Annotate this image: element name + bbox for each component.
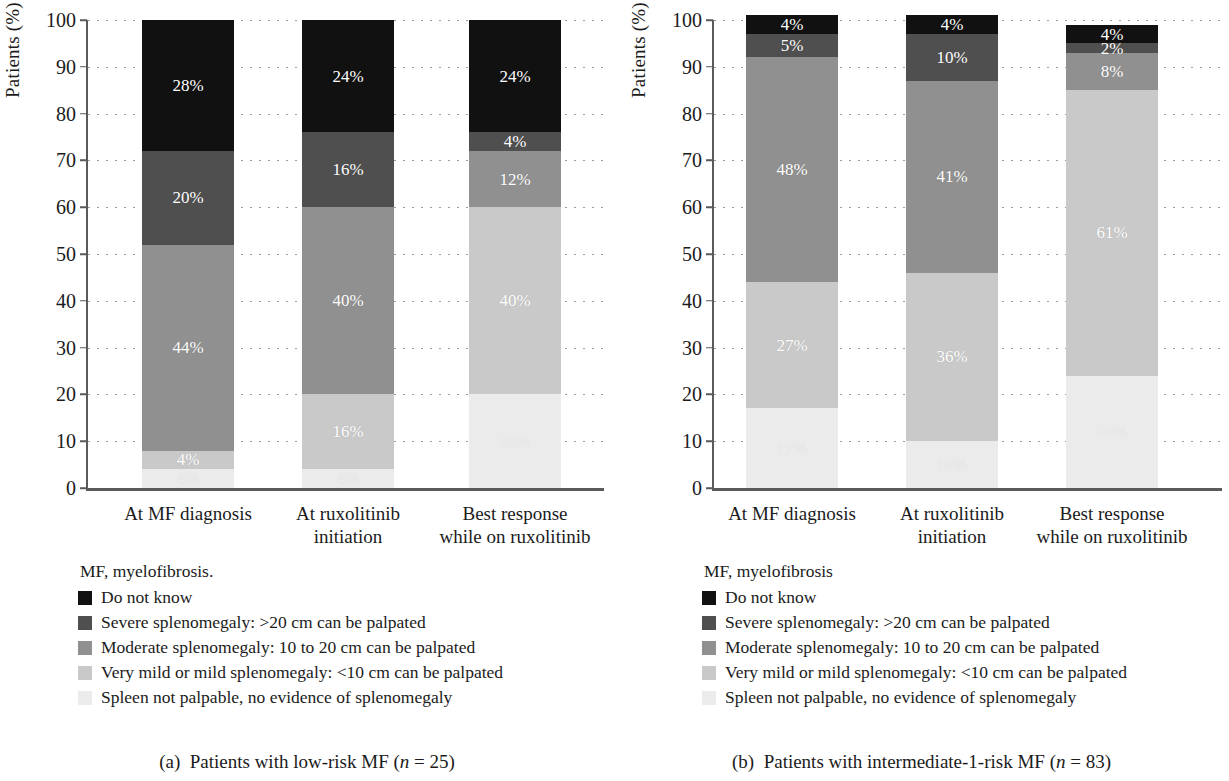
bar-segment: 4% (302, 469, 394, 488)
bar-segment: 10% (906, 441, 998, 488)
bar-segment-label: 20% (172, 189, 203, 206)
legend-b: MF, myelofibrosis Do not knowSevere sple… (702, 560, 1127, 712)
bar-segment: 24% (469, 20, 561, 132)
legend-item-label: Spleen not palpable, no evidence of sple… (101, 686, 452, 709)
bar-segment-label: 4% (941, 16, 964, 33)
panel-b: Patients (%) 0102030405060708090100 17%2… (614, 0, 1229, 781)
bar-segment: 4% (906, 15, 998, 34)
legend-item-label: Very mild or mild splenomegaly: <10 cm c… (725, 661, 1127, 684)
bar-segment-label: 28% (172, 77, 203, 94)
bar-segment: 4% (469, 132, 561, 151)
legend-item[interactable]: Very mild or mild splenomegaly: <10 cm c… (702, 661, 1127, 684)
bar-segment-label: 4% (504, 133, 527, 150)
caption-a-suffix: = 25) (409, 751, 455, 772)
legend-a: MF, myelofibrosis. Do not knowSevere spl… (78, 560, 503, 712)
caption-a-text: Patients with low-risk MF ( (190, 751, 400, 772)
bar-segment-label: 24% (1096, 423, 1127, 440)
legend-swatch-icon (78, 616, 92, 630)
legend-swatch-icon (702, 666, 716, 680)
legend-item[interactable]: Severe splenomegaly: >20 cm can be palpa… (702, 611, 1127, 634)
panel-a: Patients (%) 0102030405060708090100 4%4%… (0, 0, 614, 781)
caption-a-n: n (400, 751, 410, 772)
x-axis-line-a (86, 488, 604, 491)
category-label: Best response while on ruxolitinib (1002, 502, 1222, 548)
stacked-bar[interactable]: 24%61%8%2%4% (1066, 25, 1158, 488)
legend-item[interactable]: Moderate splenomegaly: 10 to 20 cm can b… (702, 636, 1127, 659)
bar-segment-label: 44% (172, 339, 203, 356)
bar-segment: 5% (746, 34, 838, 57)
legend-swatch-icon (702, 641, 716, 655)
bar-segment-label: 16% (332, 423, 363, 440)
bar-segment-label: 48% (776, 161, 807, 178)
bar-segment-label: 27% (776, 337, 807, 354)
bar-segment-label: 5% (781, 37, 804, 54)
bar-segment: 20% (469, 394, 561, 488)
legend-note-b: MF, myelofibrosis (704, 560, 1127, 583)
bar-segment-label: 16% (332, 161, 363, 178)
bar-segment: 4% (746, 15, 838, 34)
legend-swatch-icon (702, 616, 716, 630)
bar-segment-label: 20% (499, 433, 530, 450)
stacked-bar[interactable]: 20%40%12%4%24% (469, 20, 561, 488)
stacked-bar[interactable]: 4%4%44%20%28% (142, 20, 234, 488)
legend-swatch-icon (702, 591, 716, 605)
bar-segment: 4% (142, 469, 234, 488)
caption-a: (a) Patients with low-risk MF (n = 25) (0, 751, 614, 773)
bar-segment-label: 40% (332, 292, 363, 309)
legend-item[interactable]: Spleen not palpable, no evidence of sple… (702, 686, 1127, 709)
bar-segment: 16% (302, 132, 394, 207)
bar-segment: 8% (1066, 53, 1158, 90)
bar-segment: 4% (142, 451, 234, 470)
bar-segment-label: 24% (332, 68, 363, 85)
stacked-bar-figure: Patients (%) 0102030405060708090100 4%4%… (0, 0, 1229, 781)
legend-item[interactable]: Very mild or mild splenomegaly: <10 cm c… (78, 661, 503, 684)
bar-segment-label: 4% (177, 451, 200, 468)
bar-segment-label: 8% (1101, 63, 1124, 80)
category-label: Best response while on ruxolitinib (405, 502, 625, 548)
legend-item[interactable]: Moderate splenomegaly: 10 to 20 cm can b… (78, 636, 503, 659)
bar-segment: 16% (302, 394, 394, 469)
bar-segment: 40% (302, 207, 394, 394)
bar-segment: 4% (1066, 25, 1158, 44)
stacked-bar[interactable]: 4%16%40%16%24% (302, 20, 394, 488)
x-axis-line-b (712, 488, 1222, 491)
bar-segment: 48% (746, 57, 838, 282)
bar-segment-label: 10% (936, 456, 967, 473)
stacked-bar[interactable]: 10%36%41%10%4% (906, 15, 998, 488)
legend-item[interactable]: Severe splenomegaly: >20 cm can be palpa… (78, 611, 503, 634)
legend-swatch-icon (78, 641, 92, 655)
bar-segment: 24% (1066, 376, 1158, 488)
bar-segment: 40% (469, 207, 561, 394)
legend-item[interactable]: Do not know (702, 586, 1127, 609)
bar-segment: 12% (469, 151, 561, 207)
bar-segment: 2% (1066, 43, 1158, 52)
stacked-bar[interactable]: 17%27%48%5%4% (746, 15, 838, 488)
bar-segment-label: 4% (1101, 26, 1124, 43)
y-axis-line-b (712, 20, 714, 490)
bar-segment: 24% (302, 20, 394, 132)
legend-item[interactable]: Do not know (78, 586, 503, 609)
bar-segment-label: 41% (936, 168, 967, 185)
bar-segment: 28% (142, 20, 234, 151)
legend-item-label: Do not know (101, 586, 192, 609)
bar-segment: 61% (1066, 90, 1158, 375)
legend-swatch-icon (78, 691, 92, 705)
caption-b-text: Patients with intermediate-1-risk MF ( (764, 751, 1056, 772)
legend-swatch-icon (702, 691, 716, 705)
legend-item-label: Severe splenomegaly: >20 cm can be palpa… (725, 611, 1050, 634)
legend-swatch-icon (78, 591, 92, 605)
bar-segment: 10% (906, 34, 998, 81)
legend-item[interactable]: Spleen not palpable, no evidence of sple… (78, 686, 503, 709)
bar-segment: 36% (906, 273, 998, 441)
bar-segment: 27% (746, 282, 838, 408)
caption-a-prefix: (a) (159, 751, 180, 772)
legend-item-label: Spleen not palpable, no evidence of sple… (725, 686, 1076, 709)
bar-segment-label: 4% (781, 16, 804, 33)
legend-item-label: Moderate splenomegaly: 10 to 20 cm can b… (101, 636, 475, 659)
legend-item-label: Very mild or mild splenomegaly: <10 cm c… (101, 661, 503, 684)
bar-segment-label: 40% (499, 292, 530, 309)
bar-segment-label: 4% (337, 470, 360, 487)
bar-segment: 17% (746, 408, 838, 488)
caption-b-suffix: = 83) (1065, 751, 1111, 772)
bar-segment-label: 4% (177, 470, 200, 487)
